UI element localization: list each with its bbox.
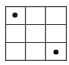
cell-2-1[interactable] — [26, 43, 45, 60]
dot-piece-icon — [12, 12, 17, 17]
cell-1-0[interactable] — [6, 25, 25, 42]
grid-board — [5, 6, 67, 61]
cell-2-0[interactable] — [6, 43, 25, 60]
cell-0-2[interactable] — [46, 7, 66, 24]
cell-1-2[interactable] — [46, 25, 66, 42]
cell-0-1[interactable] — [26, 7, 45, 24]
dot-piece-icon — [53, 49, 58, 54]
cell-1-1[interactable] — [26, 25, 45, 42]
